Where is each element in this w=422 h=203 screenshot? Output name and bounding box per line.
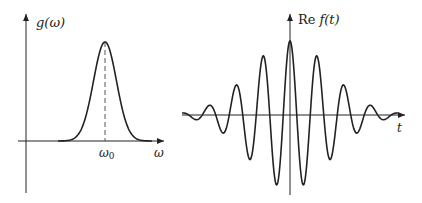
omega-axis-label: ω <box>154 146 164 160</box>
g-omega-label: g(ω) <box>36 15 65 30</box>
re-f-t-label: Ref(t) <box>298 12 340 27</box>
omega0-label: ω0 <box>99 146 115 161</box>
diagram-canvas: g(ω) ω0 ω Ref(t) t <box>0 0 422 203</box>
t-axis-label: t <box>397 121 402 135</box>
spectrum-plot: g(ω) ω0 ω <box>18 14 164 193</box>
wavepacket-plot: Ref(t) t <box>182 12 405 195</box>
